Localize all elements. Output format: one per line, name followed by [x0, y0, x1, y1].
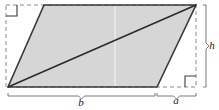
geometry-figure: b a h: [0, 0, 219, 110]
right-angle-marker-bottom-right: [185, 76, 196, 87]
label-base-b: b: [78, 96, 84, 108]
label-offset-a: a: [173, 94, 179, 106]
right-angle-marker-top-left: [6, 5, 17, 16]
label-height-h: h: [209, 39, 215, 51]
brace-height-h: [203, 5, 209, 87]
figure-canvas: b a h: [0, 0, 219, 110]
